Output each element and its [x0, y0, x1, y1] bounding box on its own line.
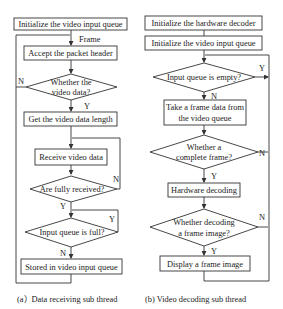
- svg-text:Initialize the video input que: Initialize the video input queue: [151, 39, 255, 48]
- svg-text:Are fully received?: Are fully received?: [40, 185, 105, 194]
- node-receive-video-data: Receive video data: [35, 149, 107, 165]
- edge-label-yes: Y: [211, 172, 217, 181]
- edge-label-yes: Y: [259, 64, 265, 73]
- node-accept-packet-header: Accept the packet header: [24, 46, 117, 60]
- svg-text:Input queue is empty?: Input queue is empty?: [167, 73, 241, 82]
- edge-label-yes: Y: [84, 102, 90, 111]
- svg-text:Stored in video input queue: Stored in video input queue: [25, 263, 118, 272]
- decision-fully-received: Are fully received?: [30, 176, 117, 202]
- decision-input-queue-empty: Input queue is empty?: [153, 63, 255, 92]
- svg-text:Whether the: Whether the: [50, 78, 91, 87]
- node-get-video-data-length: Get the video data length: [24, 112, 117, 126]
- edge-label-no: N: [259, 149, 265, 158]
- svg-text:video data?: video data?: [52, 88, 91, 97]
- svg-text:complete frame?: complete frame?: [176, 153, 232, 162]
- flowchart-video-decoding: Initialize the hardware decoder Initiali…: [145, 16, 269, 304]
- edge-label-no: N: [60, 249, 66, 258]
- flowchart-data-receiving: Initialize the video input queue Frame A…: [14, 18, 127, 304]
- svg-text:Hardware decoding: Hardware decoding: [171, 186, 238, 195]
- edge-label-no: N: [113, 175, 119, 184]
- svg-text:Take a frame data from: Take a frame data from: [166, 103, 244, 112]
- svg-text:a frame image?: a frame image?: [178, 229, 230, 238]
- svg-text:Input queue is full?: Input queue is full?: [40, 228, 105, 237]
- decision-input-queue-full: Input queue is full?: [25, 218, 118, 247]
- node-store-video-queue: Stored in video input queue: [21, 259, 122, 274]
- svg-text:Whether a: Whether a: [187, 143, 222, 152]
- edge-label-no: N: [259, 213, 265, 222]
- edge-label-yes: Y: [60, 202, 66, 211]
- node-init-hardware-decoder: Initialize the hardware decoder: [145, 16, 262, 30]
- svg-text:Receive video data: Receive video data: [39, 153, 103, 162]
- node-display-frame-image: Display a frame image: [160, 256, 250, 271]
- svg-text:Initialize the hardware decode: Initialize the hardware decoder: [152, 19, 256, 28]
- caption-a: (a）Data receiving sub thread: [17, 295, 118, 304]
- edge-label-yes: Y: [109, 215, 115, 224]
- svg-text:Whether decoding: Whether decoding: [173, 218, 235, 227]
- node-init-video-queue: Initialize the video input queue: [14, 18, 127, 30]
- caption-b: (b) Video decoding sub thread: [145, 295, 247, 304]
- svg-text:the video queue: the video queue: [178, 114, 231, 123]
- decision-complete-frame: Whether a complete frame?: [150, 135, 258, 169]
- node-take-frame-data: Take a frame data from the video queue: [164, 100, 246, 125]
- flowchart-canvas: Initialize the video input queue Frame A…: [0, 0, 283, 309]
- node-init-video-queue: Initialize the video input queue: [145, 36, 262, 50]
- svg-text:Accept the packet header: Accept the packet header: [28, 49, 113, 58]
- decision-is-video-data: Whether the video data?: [26, 74, 117, 100]
- edge-label-yes: Y: [211, 247, 217, 256]
- svg-text:Display a frame image: Display a frame image: [167, 260, 243, 269]
- edge-label-no: N: [18, 77, 24, 86]
- node-hardware-decoding: Hardware decoding: [168, 183, 240, 197]
- svg-text:Initialize the video input que: Initialize the video input queue: [18, 20, 122, 29]
- decision-decoded-frame-image: Whether decoding a frame image?: [150, 209, 258, 246]
- svg-text:Get the video data length: Get the video data length: [28, 115, 113, 124]
- frame-label: Frame: [79, 35, 101, 44]
